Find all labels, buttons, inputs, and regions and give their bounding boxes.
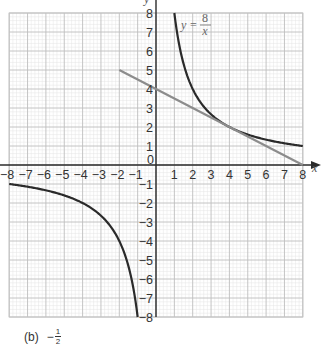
y-tick-label: 3 (146, 102, 153, 116)
y-tick-label: 7 (146, 26, 153, 40)
x-tick-label: 4 (226, 168, 233, 182)
y-tick-label: −7 (139, 292, 153, 306)
x-tick-label: 2 (189, 168, 196, 182)
x-tick-label: 5 (244, 168, 251, 182)
x-tick-label: 6 (263, 168, 270, 182)
answer-value: − 1 2 (47, 327, 61, 346)
x-tick-label: 8 (299, 168, 306, 182)
x-axis-label: x (311, 161, 318, 175)
origin-label: 0 (147, 153, 154, 167)
x-tick-label: 1 (171, 168, 178, 182)
y-axis-label: y (143, 0, 150, 6)
x-tick-label: −2 (110, 168, 124, 182)
hyperbola-branch (174, 13, 302, 146)
y-tick-label: −3 (139, 216, 153, 230)
function-label-denominator: x (201, 24, 208, 38)
x-tick-label: −5 (55, 168, 69, 182)
answer-numerator: 1 (55, 327, 61, 337)
x-tick-label: −8 (0, 168, 14, 182)
y-tick-label: 1 (146, 140, 153, 154)
function-label-lhs: y = (180, 18, 197, 32)
y-tick-label: 6 (146, 45, 153, 59)
function-label-numerator: 8 (202, 11, 208, 25)
answer: (b) − 1 2 (24, 327, 61, 346)
graph: −8−7−6−5−4−3−2−11234567887654321−1−2−3−4… (0, 0, 321, 322)
y-tick-label: 5 (146, 64, 153, 78)
y-tick-label: −2 (139, 197, 153, 211)
x-tick-label: −3 (92, 168, 106, 182)
y-tick-label: 2 (146, 121, 153, 135)
axes (0, 0, 321, 317)
x-tick-label: −6 (37, 168, 51, 182)
y-tick-label: −6 (139, 273, 153, 287)
y-tick-label: 8 (146, 7, 153, 21)
hyperbola-branch (9, 184, 137, 317)
answer-sign: − (47, 330, 54, 344)
x-tick-label: 7 (281, 168, 288, 182)
function-label: y = 8 x (180, 11, 211, 38)
x-tick-label: −7 (18, 168, 32, 182)
y-tick-label: −5 (139, 254, 153, 268)
x-tick-label: 3 (208, 168, 215, 182)
answer-part-label: (b) (24, 330, 39, 344)
x-tick-label: −4 (73, 168, 87, 182)
y-tick-label: −4 (139, 235, 153, 249)
y-tick-label: 4 (146, 83, 153, 97)
y-tick-label: −8 (139, 311, 153, 322)
y-tick-label: −1 (139, 178, 153, 192)
answer-fraction: 1 2 (55, 327, 61, 346)
answer-denominator: 2 (56, 337, 60, 346)
